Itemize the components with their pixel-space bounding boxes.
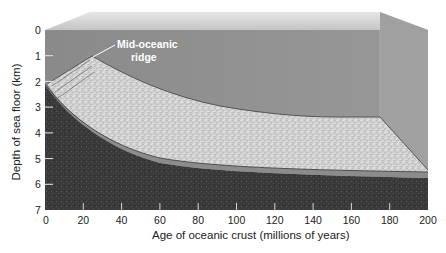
svg-text:200: 200: [419, 214, 437, 226]
svg-text:6: 6: [35, 178, 41, 190]
svg-text:2: 2: [35, 76, 41, 88]
svg-text:140: 140: [304, 214, 322, 226]
svg-text:80: 80: [192, 214, 204, 226]
x-axis-labels: 0 20 40 60 80 100 120 140 160 180 200: [43, 214, 437, 226]
svg-text:5: 5: [35, 153, 41, 165]
svg-text:3: 3: [35, 101, 41, 113]
svg-text:40: 40: [116, 214, 128, 226]
annotation-label-line1: Mid-oceanic: [117, 38, 178, 50]
svg-text:160: 160: [343, 214, 361, 226]
annotation-label-line2: ridge: [131, 51, 157, 63]
svg-text:100: 100: [228, 214, 246, 226]
svg-text:1: 1: [35, 50, 41, 62]
y-axis-labels: 0 1 2 3 4 5 6 7: [35, 24, 41, 216]
water-top-face: [45, 12, 428, 30]
seafloor-depth-diagram: Mid-oceanic ridge 0 1 2 3 4 5 6 7 Depth …: [0, 0, 446, 253]
y-axis-title: Depth of sea floor (km): [10, 63, 22, 180]
svg-text:180: 180: [381, 214, 399, 226]
svg-text:4: 4: [35, 127, 41, 139]
svg-text:60: 60: [154, 214, 166, 226]
svg-text:120: 120: [266, 214, 284, 226]
svg-text:7: 7: [35, 204, 41, 216]
svg-text:0: 0: [43, 214, 49, 226]
x-axis-title: Age of oceanic crust (millions of years): [152, 229, 350, 241]
svg-text:20: 20: [77, 214, 89, 226]
svg-text:0: 0: [35, 24, 41, 36]
